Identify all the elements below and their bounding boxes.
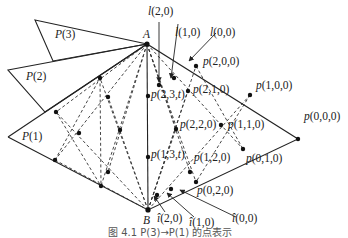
arrow-label: î(0,0) (232, 212, 257, 225)
polytope-labels: P(3)P(2)P(1) (21, 28, 76, 143)
point-marker (219, 123, 223, 127)
polytope-label: P(2) (25, 70, 47, 83)
figure-caption: 图 4.1 P(3)→P(1) 的点表示 (108, 226, 232, 238)
vertex-B: B (143, 207, 151, 226)
arrow-icon (154, 196, 165, 212)
point-label: p(0,2,0) (196, 184, 234, 197)
intersection-point (172, 76, 176, 80)
point-marker (186, 89, 190, 93)
point-label: p(1,1,0) (227, 118, 265, 131)
intersection-point (54, 110, 58, 114)
point-label: p(2,0,0) (202, 55, 240, 68)
arrow-label: l(2,0) (148, 5, 173, 18)
svg-text:A: A (142, 28, 151, 40)
geometric-diagram: l(2,0)l(1,0)l(0,0)î(2,0)î(1,0)î(0,0) p(0… (0, 0, 348, 238)
arrow-label: l(0,0) (210, 26, 235, 39)
point-label: p(2,1,0) (192, 83, 230, 96)
intersection-point (99, 184, 103, 188)
point-marker (248, 93, 252, 97)
intersection-point (77, 131, 81, 135)
point-marker (174, 127, 178, 131)
vertex-A: A (142, 28, 151, 47)
point-marker (146, 155, 150, 159)
intersection-point (106, 170, 110, 174)
point-marker (194, 64, 198, 68)
point-label: p(1,3,t) (150, 148, 185, 161)
intersection-point (157, 83, 161, 87)
point-label: p(1,2,0) (193, 151, 231, 164)
point-label: p(2,2,0) (179, 118, 217, 131)
point-marker (146, 94, 150, 98)
edge-A-B (147, 44, 148, 210)
point-marker (241, 147, 245, 151)
polytope-label: P(1) (21, 130, 43, 143)
arrow-label: l(1,0) (175, 26, 200, 39)
intersection-point (155, 193, 159, 197)
point-label: p(0,1,0) (245, 152, 283, 165)
svg-text:B: B (143, 214, 150, 226)
intersection-point (106, 95, 110, 99)
point-marker (188, 170, 192, 174)
point-label: p(2,3,t) (150, 88, 185, 101)
arrow-label: î(2,0) (157, 212, 182, 225)
intersection-point (53, 158, 57, 162)
point-marker (296, 137, 300, 141)
point-label: p(0,0,0) (303, 110, 341, 123)
point-label: p(1,0,0) (255, 79, 293, 92)
intersection-point (98, 76, 102, 80)
intersection-point (169, 187, 173, 191)
polytope-label: P(3) (54, 28, 76, 41)
intersection-point (118, 128, 122, 132)
polytope-outlines (8, 20, 147, 112)
